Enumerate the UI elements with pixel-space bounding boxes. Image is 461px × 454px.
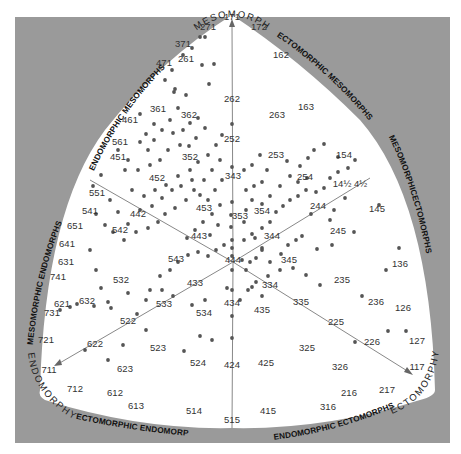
data-point: [218, 158, 222, 162]
data-point: [206, 254, 210, 258]
data-point: [384, 268, 388, 272]
data-point: [170, 68, 174, 72]
somatotype-code-label: 326: [332, 361, 348, 372]
somatotype-code-label: 244: [310, 200, 326, 211]
data-point: [196, 250, 200, 254]
somatotype-code-label: 424: [224, 359, 240, 370]
data-point: [198, 334, 202, 338]
data-point: [198, 193, 202, 197]
data-point: [186, 253, 190, 257]
somatotype-code-label: 252: [224, 133, 240, 144]
somatotype-code-label: 442: [130, 208, 146, 219]
data-point: [242, 168, 246, 172]
data-point: [203, 298, 207, 302]
somatotype-code-label: 254: [297, 171, 313, 182]
data-point: [166, 148, 170, 152]
data-point: [330, 243, 334, 247]
somatotype-code-label: 623: [117, 363, 133, 374]
data-point: [144, 132, 148, 136]
somatotype-code-label: 651: [67, 220, 83, 231]
data-point: [260, 248, 264, 252]
somatotype-code-label: 344: [264, 230, 280, 241]
data-point: [397, 246, 401, 250]
data-point: [309, 212, 313, 216]
somatotype-code-label: 316: [320, 401, 336, 412]
somatotype-code-label: 444: [225, 254, 241, 265]
somatotype-code-label: 361: [150, 103, 166, 114]
data-point: [146, 148, 150, 152]
data-point: [158, 274, 162, 278]
data-point: [286, 243, 290, 247]
data-point: [353, 158, 357, 162]
data-point: [130, 188, 134, 192]
somatotype-code-label: 631: [58, 256, 74, 267]
data-point: [198, 35, 202, 39]
somatotype-code-label: 216: [341, 387, 357, 398]
data-point: [213, 188, 217, 192]
data-point: [99, 173, 103, 177]
data-point: [230, 200, 234, 204]
data-point: [163, 212, 167, 216]
data-point: [274, 210, 278, 214]
data-point: [314, 190, 318, 194]
data-point: [94, 268, 98, 272]
data-point: [99, 286, 103, 290]
data-point: [328, 218, 332, 222]
data-point: [200, 63, 204, 67]
data-point: [346, 166, 350, 170]
data-point: [179, 184, 183, 188]
data-point: [214, 143, 218, 147]
somatotype-code-label: 136: [392, 258, 408, 269]
data-point: [306, 156, 310, 160]
data-point: [212, 62, 216, 66]
somatotype-code-label: 162: [273, 49, 289, 60]
data-point: [268, 194, 272, 198]
somatotype-code-label: 711: [41, 364, 56, 375]
data-point: [202, 178, 206, 182]
data-point: [328, 176, 332, 180]
data-point: [253, 236, 257, 240]
data-point: [300, 234, 304, 238]
data-point: [176, 174, 180, 178]
data-point: [304, 273, 308, 277]
somatotype-code-label: 334: [262, 279, 278, 290]
data-point: [298, 164, 302, 168]
somatotype-code-label: 712: [67, 383, 83, 394]
data-point: [160, 196, 164, 200]
data-point: [246, 288, 250, 292]
data-point: [194, 136, 198, 140]
somatotype-code-label: 425: [258, 357, 274, 368]
somatotype-code-label: 145: [369, 203, 385, 214]
data-point: [265, 168, 269, 172]
somatotype-code-label: 345: [281, 254, 297, 265]
data-point: [318, 283, 322, 287]
somatotype-code-label: 435: [254, 304, 270, 315]
somatotype-code-label: 263: [269, 109, 285, 120]
data-point: [108, 198, 112, 202]
data-point: [203, 126, 207, 130]
somatotype-code-label: 434: [224, 297, 240, 308]
data-point: [150, 204, 154, 208]
data-point: [225, 286, 229, 290]
data-point: [260, 294, 264, 298]
data-point: [152, 122, 156, 126]
somatotype-code-label: 542: [112, 224, 128, 235]
somatotype-code-label: 235: [334, 274, 350, 285]
data-point: [343, 196, 347, 200]
somatotype-code-label: 534: [196, 307, 212, 318]
data-point: [207, 82, 211, 86]
somatotype-code-label: 721: [38, 334, 54, 345]
somatotype-code-label: 217: [379, 384, 395, 395]
data-point: [164, 183, 168, 187]
somatotype-code-label: 117: [409, 361, 424, 372]
data-point: [244, 188, 248, 192]
data-point: [210, 338, 214, 342]
somatotype-code-label: 523: [150, 342, 166, 353]
somatotype-code-label: 226: [364, 336, 380, 347]
somatotype-code-label: 612: [107, 387, 123, 398]
data-point: [294, 238, 298, 242]
somatotype-code-label: 641: [59, 238, 75, 249]
somatotype-code-label: 352: [182, 151, 198, 162]
data-point: [185, 236, 189, 240]
data-point: [168, 268, 172, 272]
